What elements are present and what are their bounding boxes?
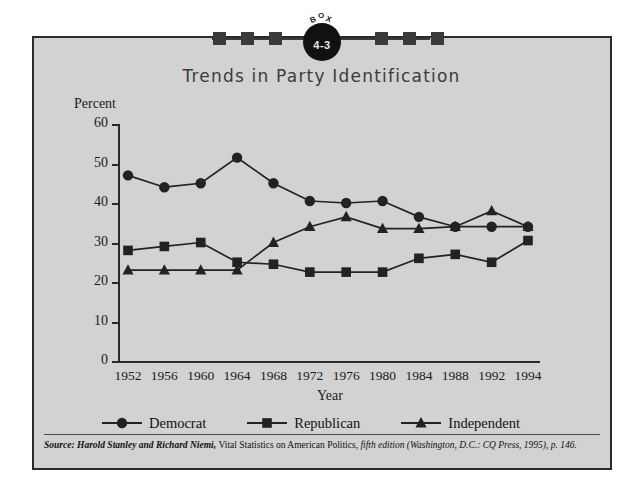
source-work: Vital Statistics on American Politics, (218, 440, 358, 450)
y-tick-mark-20 (112, 282, 118, 284)
series-line-independent (128, 211, 528, 270)
point-democrat-1984 (414, 212, 424, 222)
legend-label-democrat: Democrat (149, 415, 206, 432)
y-tick-0: 0 (68, 352, 108, 368)
legend-item-republican[interactable]: Republican (245, 415, 360, 432)
point-independent-1976 (341, 211, 352, 221)
box-badge-ribbon: 4-3 BOX (0, 24, 643, 56)
y-tick-30: 30 (68, 234, 108, 250)
point-democrat-1980 (377, 196, 387, 206)
source-divider (44, 434, 600, 435)
box-number-badge: 4-3 (303, 23, 341, 61)
point-republican-1952 (123, 246, 133, 256)
y-tick-mark-30 (112, 243, 118, 245)
y-axis-title: Percent (74, 96, 116, 112)
legend-item-democrat[interactable]: Democrat (100, 415, 206, 432)
chart-legend: DemocratRepublicanIndependent (100, 412, 520, 434)
source-edition: fifth edition (Washington, D.C.: CQ Pres… (360, 440, 576, 450)
series-line-democrat (128, 158, 528, 227)
point-republican-1980 (378, 267, 388, 277)
y-tick-mark-60 (112, 124, 118, 126)
chart-title: Trends in Party Identification (0, 66, 643, 86)
y-tick-40: 40 (68, 194, 108, 210)
point-democrat-1992 (486, 222, 496, 232)
legend-marker-square-icon (245, 415, 289, 431)
point-republican-1988 (450, 250, 460, 260)
point-republican-1994 (523, 236, 533, 246)
y-tick-20: 20 (68, 273, 108, 289)
point-republican-1992 (487, 257, 497, 267)
x-axis-tick-labels: 1952195619601964196819721976198019841988… (118, 368, 542, 388)
point-democrat-1968 (268, 178, 278, 188)
point-republican-1976 (341, 267, 351, 277)
point-republican-1968 (269, 259, 279, 269)
y-axis-tick-labels: 0102030405060 (62, 124, 108, 363)
series-line-republican (128, 241, 528, 273)
point-independent-1992 (486, 205, 497, 215)
ribbon-square-3 (269, 32, 282, 45)
point-republican-1960 (196, 238, 206, 248)
ribbon-square-1 (213, 32, 226, 45)
source-note: Source: Harold Stanley and Richard Niemi… (44, 438, 604, 452)
x-axis-line (118, 361, 540, 363)
plot-area (118, 124, 538, 361)
point-democrat-1960 (196, 178, 206, 188)
point-republican-1972 (305, 267, 315, 277)
series-lines (118, 124, 538, 361)
legend-label-independent: Independent (448, 415, 520, 432)
page-root: 4-3 BOX Trends in Party Identification P… (0, 0, 643, 493)
box-word-label: BOX (294, 12, 350, 21)
y-tick-50: 50 (68, 155, 108, 171)
ribbon-square-6 (431, 32, 444, 45)
ribbon-square-5 (403, 32, 416, 45)
legend-marker-triangle-icon (399, 415, 443, 431)
point-republican-1956 (160, 242, 170, 252)
y-tick-mark-50 (112, 164, 118, 166)
point-democrat-1956 (159, 182, 169, 192)
source-prefix: Source: (44, 440, 75, 450)
y-tick-10: 10 (68, 313, 108, 329)
legend-marker-circle-icon (100, 415, 144, 431)
y-tick-mark-0 (112, 361, 118, 363)
ribbon-square-4 (375, 32, 388, 45)
y-tick-mark-40 (112, 203, 118, 205)
y-tick-mark-10 (112, 322, 118, 324)
box-number-label: 4-3 (313, 39, 330, 51)
point-democrat-1964 (232, 152, 242, 162)
point-republican-1984 (414, 254, 424, 264)
y-tick-60: 60 (68, 115, 108, 131)
source-authors: Harold Stanley and Richard Niemi, (77, 440, 216, 450)
ribbon-square-2 (241, 32, 254, 45)
legend-item-independent[interactable]: Independent (399, 415, 520, 432)
x-axis-title: Year (118, 388, 542, 404)
legend-label-republican: Republican (294, 415, 360, 432)
x-tick-1994: 1994 (498, 368, 558, 384)
point-democrat-1952 (123, 170, 133, 180)
point-democrat-1976 (341, 198, 351, 208)
point-democrat-1972 (305, 196, 315, 206)
